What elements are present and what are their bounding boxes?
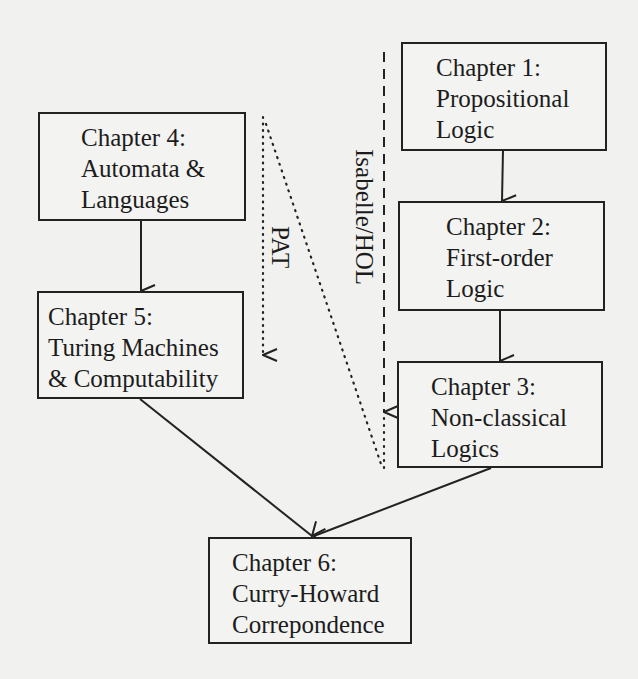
node-subtitle: Correpondence [232, 609, 410, 640]
node-subtitle: Languages [81, 184, 244, 215]
node-chapter-1: Chapter 1: Propositional Logic [401, 42, 607, 151]
edge-ch1-ch2 [502, 150, 503, 201]
node-subtitle: Turing Machines [48, 332, 242, 363]
node-chapter-3: Chapter 3: Non-classical Logics [397, 361, 603, 468]
node-subtitle: Automata & [81, 153, 244, 184]
isabelle-hol-label: Isabelle/HOL [350, 149, 378, 285]
node-subtitle: Logic [446, 273, 603, 304]
node-title: Chapter 1: [436, 52, 605, 83]
node-chapter-4: Chapter 4: Automata & Languages [38, 112, 246, 221]
node-subtitle: Propositional [436, 83, 605, 114]
edge-ch3-ch6 [314, 468, 491, 536]
node-subtitle: Logics [431, 433, 601, 464]
node-subtitle: & Computability [48, 363, 242, 394]
node-subtitle: Non-classical [431, 402, 601, 433]
node-title: Chapter 2: [446, 211, 603, 242]
node-chapter-2: Chapter 2: First-order Logic [398, 201, 605, 311]
node-chapter-5: Chapter 5: Turing Machines & Computabili… [37, 291, 244, 399]
node-title: Chapter 6: [232, 547, 410, 578]
node-chapter-6: Chapter 6: Curry-Howard Correpondence [208, 537, 412, 644]
pat-label: PAT [266, 226, 294, 268]
node-title: Chapter 3: [431, 371, 601, 402]
node-title: Chapter 5: [48, 301, 242, 332]
node-subtitle: Logic [436, 114, 605, 145]
node-title: Chapter 4: [81, 122, 244, 153]
edge-ch5-ch6 [140, 399, 312, 536]
node-subtitle: First-order [446, 242, 603, 273]
diagram-canvas: Chapter 1: Propositional Logic Chapter 2… [0, 0, 638, 679]
node-subtitle: Curry-Howard [232, 578, 410, 609]
